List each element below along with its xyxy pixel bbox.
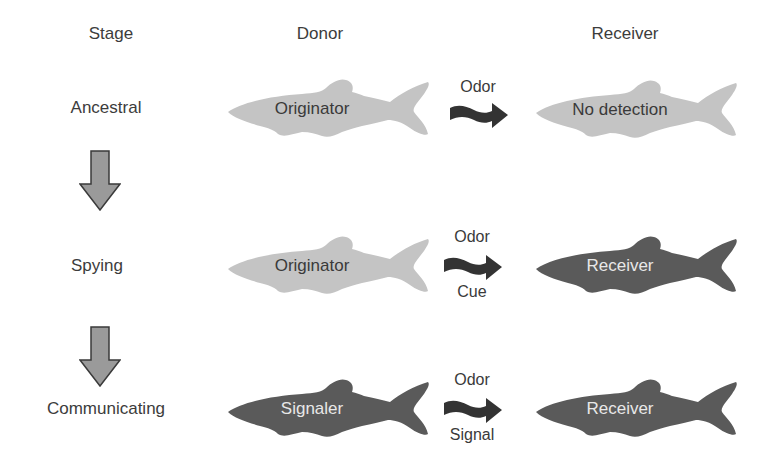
stage-label-spying: Spying bbox=[71, 256, 123, 276]
stage-label-ancestral: Ancestral bbox=[71, 98, 142, 118]
donor-fish-spying: Originator bbox=[222, 229, 434, 303]
receiver-column-header: Receiver bbox=[591, 24, 658, 44]
odor-flow-spying: Odor Cue bbox=[432, 228, 512, 308]
receiver-label: No detection bbox=[530, 73, 702, 147]
wavy-right-arrow-icon bbox=[448, 100, 510, 130]
flow-label-above: Odor bbox=[432, 371, 512, 389]
down-arrow-icon bbox=[79, 150, 121, 212]
receiver-label: Receiver bbox=[530, 372, 702, 446]
stage-column-header: Stage bbox=[89, 24, 133, 44]
flow-label-below: Signal bbox=[432, 426, 512, 444]
flow-label-above: Odor bbox=[432, 228, 512, 246]
odor-flow-communicating: Odor Signal bbox=[432, 371, 512, 451]
receiver-fish-ancestral: No detection bbox=[530, 73, 742, 147]
down-arrow-icon bbox=[79, 326, 121, 388]
donor-label: Originator bbox=[222, 229, 394, 303]
receiver-label: Receiver bbox=[530, 229, 702, 303]
wavy-right-arrow-icon bbox=[442, 252, 504, 282]
donor-label: Signaler bbox=[222, 372, 394, 446]
donor-fish-communicating: Signaler bbox=[222, 372, 434, 446]
receiver-fish-communicating: Receiver bbox=[530, 372, 742, 446]
wavy-right-arrow-icon bbox=[442, 395, 504, 425]
stage-label-communicating: Communicating bbox=[47, 399, 165, 419]
donor-fish-ancestral: Originator bbox=[222, 72, 434, 146]
flow-label-below: Cue bbox=[432, 283, 512, 301]
donor-column-header: Donor bbox=[297, 24, 343, 44]
odor-flow-ancestral: Odor bbox=[438, 78, 518, 138]
flow-label-above: Odor bbox=[438, 78, 518, 96]
donor-label: Originator bbox=[222, 72, 394, 146]
receiver-fish-spying: Receiver bbox=[530, 229, 742, 303]
